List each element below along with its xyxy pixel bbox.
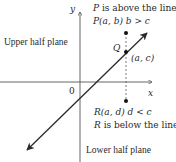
lower-half-plane-label: Lower half plane xyxy=(86,145,151,155)
y-axis-label: y xyxy=(70,4,75,14)
point-p xyxy=(124,31,128,35)
r-caption: R is below the line xyxy=(94,120,176,130)
point-q xyxy=(124,50,128,54)
p-caption-rest: is above the line xyxy=(99,3,176,13)
q-coord-label: (a, c) xyxy=(131,53,154,63)
point-r xyxy=(124,99,128,103)
x-axis-label: x xyxy=(148,88,153,98)
q-label: Q xyxy=(113,43,120,53)
origin-label: 0 xyxy=(69,86,75,96)
p-caption: P is above the line xyxy=(93,3,176,13)
upper-half-plane-label: Upper half plane xyxy=(4,37,68,47)
r-coord-label: R(a, d) d < c xyxy=(94,107,152,117)
r-caption-rest: is below the line xyxy=(101,120,176,130)
boundary-line xyxy=(27,33,147,150)
r-caption-letter: R xyxy=(94,120,101,130)
p-coord-label: P(a, b) b > c xyxy=(93,16,150,26)
